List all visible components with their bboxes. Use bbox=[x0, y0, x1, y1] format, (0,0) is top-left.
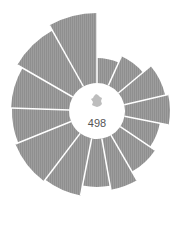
france-map-icon bbox=[91, 94, 103, 108]
center-value: 498 bbox=[77, 117, 117, 129]
